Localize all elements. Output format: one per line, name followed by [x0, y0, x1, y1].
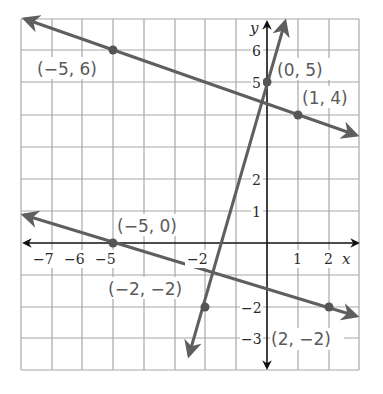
point-minus5-6	[109, 46, 118, 55]
label-point-minus5-6: (−5, 6)	[37, 59, 97, 79]
y-tick-5: 5	[252, 75, 261, 91]
y-tick-6: 6	[252, 43, 261, 59]
point-minus5-0	[109, 239, 118, 248]
x-tick-minus6: −6	[64, 251, 85, 267]
label-point-2-minus2: (2, −2)	[271, 329, 331, 349]
point-2-minus2	[325, 303, 334, 312]
x-tick-minus5: −5	[95, 251, 116, 267]
coordinate-graph: (−5, 6) (0, 5) (1, 4) (−5, 0) (−2, −2) (…	[0, 0, 383, 394]
y-tick-2: 2	[252, 172, 261, 188]
label-point-minus2-minus2: (−2, −2)	[108, 279, 182, 299]
y-tick-1: 1	[252, 204, 261, 220]
y-tick-minus2: −2	[241, 300, 262, 316]
x-axis-label: x	[342, 250, 351, 268]
label-point-0-5: (0, 5)	[277, 60, 323, 80]
point-1-4	[294, 111, 303, 120]
y-tick-minus3: −3	[241, 331, 262, 347]
point-minus2-minus2	[201, 303, 210, 312]
x-tick-2: 2	[324, 251, 333, 267]
x-tick-minus2: −2	[187, 251, 208, 267]
x-tick-minus7: −7	[33, 251, 54, 267]
label-point-1-4: (1, 4)	[302, 88, 348, 108]
x-tick-1: 1	[293, 251, 302, 267]
point-0-5	[263, 78, 272, 87]
label-point-minus5-0: (−5, 0)	[117, 216, 177, 236]
y-axis-label: y	[249, 19, 259, 37]
